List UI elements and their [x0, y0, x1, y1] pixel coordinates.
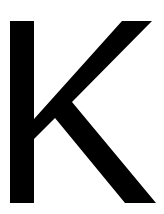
letter-k-icon: [0, 0, 164, 214]
